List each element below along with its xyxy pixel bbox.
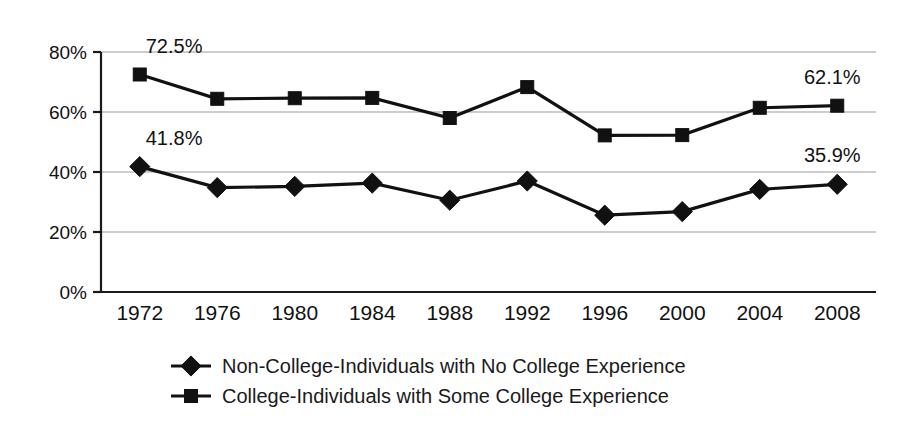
y-axis-tick-label: 40% [49, 162, 87, 183]
y-axis-tick-label: 60% [49, 102, 87, 123]
data-point-marker [366, 91, 379, 104]
data-point-marker [133, 68, 146, 81]
legend-label: College-Individuals with Some College Ex… [222, 385, 669, 407]
data-point-marker [753, 101, 766, 114]
x-axis-tick-label: 1988 [426, 301, 473, 324]
data-point-marker [831, 99, 844, 112]
y-axis-tick-label: 20% [49, 222, 87, 243]
x-axis-tick-label: 1980 [271, 301, 318, 324]
data-point-label: 41.8% [146, 127, 203, 149]
data-point-marker [288, 92, 301, 105]
y-axis-tick-label: 80% [49, 42, 87, 63]
x-axis-tick-label: 1976 [194, 301, 241, 324]
x-axis-tick-label: 1984 [349, 301, 396, 324]
data-point-marker [211, 92, 224, 105]
data-point-label: 62.1% [804, 66, 861, 88]
legend-label: Non-College-Individuals with No College … [222, 355, 686, 377]
legend-item: College-Individuals with Some College Ex… [171, 385, 669, 407]
data-point-marker [676, 129, 689, 142]
data-point-label: 72.5% [146, 35, 203, 57]
chart-canvas: 0%20%40%60%80% 1972197619801984198819921… [0, 0, 905, 421]
line-chart: 0%20%40%60%80% 1972197619801984198819921… [0, 0, 905, 421]
legend-item: Non-College-Individuals with No College … [171, 355, 686, 377]
x-axis-tick-label: 2004 [736, 301, 783, 324]
x-axis-tick-label: 1992 [504, 301, 551, 324]
data-point-marker [598, 129, 611, 142]
data-point-marker [521, 81, 534, 94]
x-axis-tick-label: 2000 [659, 301, 706, 324]
x-axis-tick-label: 1996 [581, 301, 628, 324]
y-axis-tick-label: 0% [60, 282, 88, 303]
x-axis-tick-label: 2008 [814, 301, 861, 324]
data-point-marker [443, 112, 456, 125]
legend-marker-square-icon [185, 390, 198, 403]
x-axis-tick-label: 1972 [116, 301, 163, 324]
data-point-label: 35.9% [804, 144, 861, 166]
